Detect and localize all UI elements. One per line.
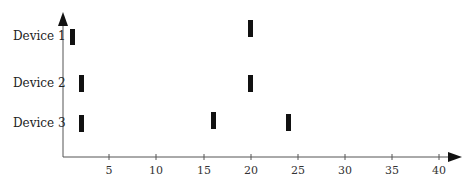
x-tick-label: 35	[385, 164, 399, 177]
event-marker-device-3	[211, 112, 216, 129]
event-marker-device-3	[79, 115, 84, 132]
x-axis-arrow-icon	[448, 152, 462, 162]
event-marker-device-2	[248, 75, 253, 92]
y-axis-arrow-icon	[58, 12, 68, 26]
x-tick-label: 15	[197, 164, 211, 177]
row-label-device-3: Device 3	[13, 116, 66, 130]
x-tick-label: 40	[432, 164, 446, 177]
event-marker-device-1	[248, 20, 253, 37]
x-tick-label: 5	[106, 164, 113, 177]
x-tick-label: 30	[338, 164, 352, 177]
x-tick-label: 20	[244, 164, 258, 177]
event-timeline-chart: 5 10 15 20 25 30 35 40 Device 1 Device 2…	[0, 0, 473, 189]
event-marker-device-1	[70, 29, 75, 45]
event-marker-device-2	[79, 75, 84, 92]
x-tick-label: 25	[291, 164, 305, 177]
x-tick-label: 10	[149, 164, 163, 177]
row-label-device-1: Device 1	[13, 29, 66, 43]
row-label-device-2: Device 2	[13, 76, 66, 90]
event-marker-device-3	[286, 114, 291, 131]
